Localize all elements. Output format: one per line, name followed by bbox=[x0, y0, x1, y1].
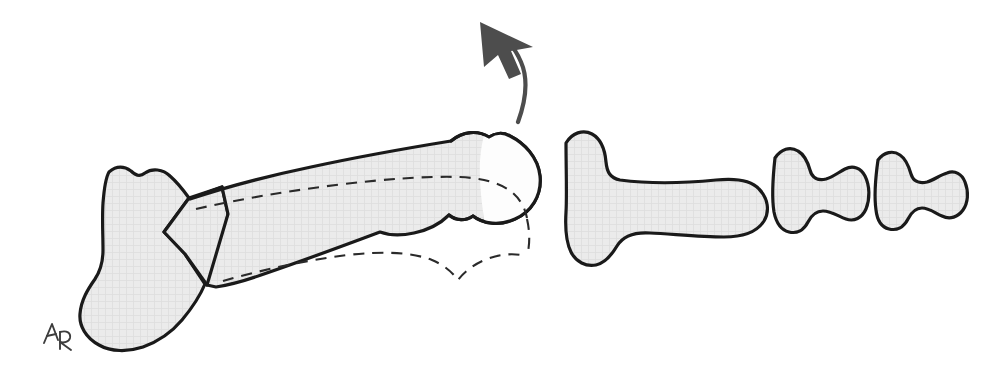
figure-canvas bbox=[0, 0, 1004, 367]
correction-direction-arrow bbox=[480, 22, 533, 122]
anatomical-figure bbox=[0, 0, 1004, 367]
bone-middle-phalanx bbox=[773, 149, 869, 233]
bone-proximal-phalanx bbox=[566, 132, 768, 266]
artist-signature bbox=[44, 324, 71, 350]
bone-distal-phalanx bbox=[875, 152, 967, 229]
bone-medial-cuneiform bbox=[80, 167, 205, 350]
